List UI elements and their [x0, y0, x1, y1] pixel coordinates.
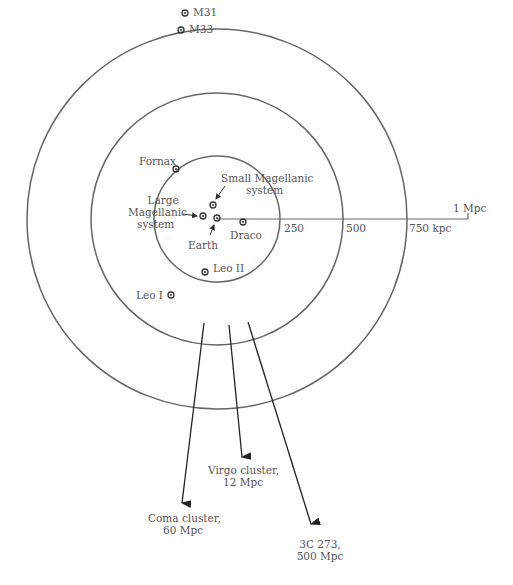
m31-label: M31 — [193, 6, 217, 19]
scale-750: 750 kpc — [409, 222, 451, 235]
3c273-label-2: 500 Mpc — [290, 550, 350, 563]
coma-label-2: 60 Mpc — [148, 524, 218, 537]
draco-label: Draco — [230, 229, 262, 242]
leo2-label: Leo II — [213, 262, 244, 275]
leo1-label: Leo I — [136, 289, 163, 302]
lmc-label-3: system — [137, 218, 174, 231]
diagram-graphics — [0, 0, 513, 585]
smc-label-2: system — [246, 184, 283, 197]
local-group-diagram: M31 M33 Fornax Small Magellanic system L… — [0, 0, 513, 585]
scale-250: 250 — [284, 222, 304, 235]
scale-1mpc: 1 Mpc — [453, 202, 486, 215]
m33-label: M33 — [189, 23, 213, 36]
earth-label: Earth — [188, 239, 218, 252]
virgo-label-2: 12 Mpc — [208, 476, 278, 489]
scale-500: 500 — [346, 222, 366, 235]
fornax-label: Fornax — [139, 155, 176, 168]
